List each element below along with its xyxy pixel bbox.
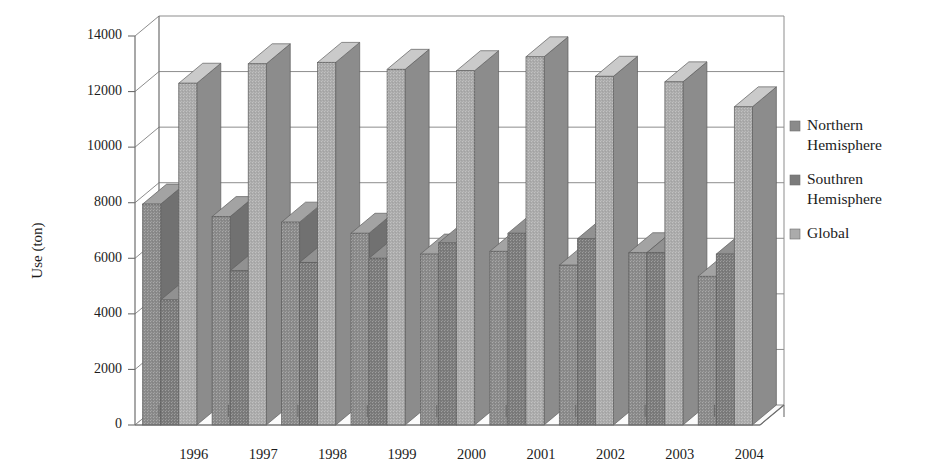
legend-swatch	[790, 175, 800, 185]
y-axis-title-label: Use (ton)	[29, 222, 46, 278]
x-axis-tick-label: 2001	[526, 446, 555, 462]
y-axis-tick-label: 10000	[87, 138, 122, 153]
y-axis-tick-label: 0	[115, 416, 122, 431]
bars-group	[143, 37, 777, 425]
x-axis-tick-label: 2002	[596, 446, 625, 462]
legend-item-3[interactable]: Global	[790, 224, 849, 241]
legend-item-1[interactable]: NorthernHemisphere	[790, 116, 882, 153]
legend-label: Northern	[807, 116, 863, 133]
legend-label: Hemisphere	[807, 190, 882, 207]
legend-swatch	[790, 229, 800, 239]
legend-swatch	[790, 121, 800, 131]
y-axis-tick-label: 2000	[94, 361, 122, 376]
legend-label: Global	[807, 224, 849, 241]
x-axis-tick-label: 1996	[179, 446, 208, 462]
x-axis-tick-label: 2003	[665, 446, 694, 462]
y-axis-title: Use (ton)	[29, 222, 46, 278]
y-axis-tick-label: 6000	[94, 250, 122, 265]
y-axis-tick-label: 8000	[94, 194, 122, 209]
legend-item-2[interactable]: SouthrenHemisphere	[790, 170, 882, 207]
legend-label: Southren	[807, 170, 863, 187]
y-axis-tick-label: 14000	[87, 27, 122, 42]
x-axis-tick-label: 2004	[735, 446, 765, 462]
chart-canvas: 02000400060008000100001200014000 1996199…	[0, 0, 947, 476]
chart-legend: NorthernHemisphereSouthrenHemisphereGlob…	[790, 116, 882, 241]
legend-label: Hemisphere	[807, 136, 882, 153]
x-axis-tick-label: 1999	[388, 446, 417, 462]
x-axis-tick-label: 1997	[249, 446, 278, 462]
y-axis-tick-label: 4000	[94, 305, 122, 320]
bar-chart: 02000400060008000100001200014000 1996199…	[0, 0, 947, 476]
bar-2004-series-3	[734, 87, 776, 425]
y-axis-tick-label: 12000	[87, 83, 122, 98]
x-axis-tick-label: 2000	[457, 446, 486, 462]
x-axis-tick-label: 1998	[318, 446, 347, 462]
